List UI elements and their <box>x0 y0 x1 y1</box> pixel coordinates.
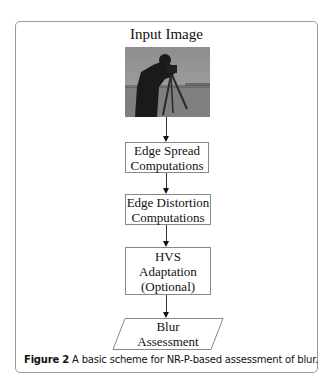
connector-line <box>166 173 167 188</box>
step-hvs-adaptation: HVS Adaptation (Optional) <box>125 247 211 295</box>
step-label-line: Adaptation <box>139 264 197 279</box>
step-label-line: Edge Distortion <box>127 195 210 210</box>
step-label-line: HVS <box>155 249 181 264</box>
connector-line <box>166 117 167 136</box>
caption-text: A basic scheme for NR-P-based assessment… <box>69 354 318 365</box>
input-image-title: Input Image <box>0 26 333 43</box>
input-image <box>125 47 210 117</box>
output-label-line: Assessment <box>137 334 198 349</box>
step-edge-spread: Edge Spread Computations <box>125 142 209 173</box>
step-label-line: Computations <box>131 158 204 173</box>
caption-label: Figure 2 <box>24 354 69 365</box>
figure-caption: Figure 2 A basic scheme for NR-P-based a… <box>24 354 318 365</box>
connector-line <box>166 225 167 241</box>
output-blur-assessment: Blur Assessment <box>112 318 224 350</box>
step-label-line: Computations <box>132 210 205 225</box>
step-label-line: (Optional) <box>141 279 195 294</box>
step-edge-distortion: Edge Distortion Computations <box>125 194 211 225</box>
connector-line <box>166 295 167 312</box>
step-label-line: Edge Spread <box>134 143 200 158</box>
output-label-line: Blur <box>156 319 179 334</box>
